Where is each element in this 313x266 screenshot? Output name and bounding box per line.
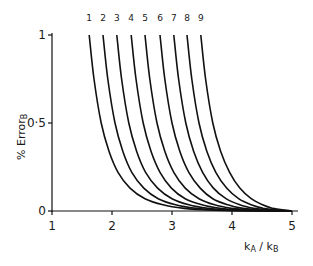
curves-group xyxy=(89,35,292,211)
curve-label-2: 2 xyxy=(100,13,106,23)
y-tick-label: 0·5 xyxy=(27,116,46,130)
curve-7 xyxy=(174,35,292,211)
x-tick-label: 2 xyxy=(108,219,116,233)
curve-label-4: 4 xyxy=(128,13,134,23)
x-ticks-group: 12345 xyxy=(48,211,296,233)
curve-label-6: 6 xyxy=(157,13,163,23)
curve-label-5: 5 xyxy=(142,13,148,23)
curve-label-1: 1 xyxy=(86,13,92,23)
x-tick-label: 4 xyxy=(228,219,236,233)
error-vs-rate-ratio-chart: 123456789 12345 00·51 kA / kB % ErrorB xyxy=(0,0,313,266)
y-tick-label: 1 xyxy=(38,28,46,42)
curve-6 xyxy=(160,35,290,211)
x-tick-label: 1 xyxy=(48,219,56,233)
curve-9 xyxy=(201,35,292,211)
x-axis-title: kA / kB xyxy=(244,240,278,254)
curve-label-8: 8 xyxy=(184,13,190,23)
curve-label-7: 7 xyxy=(171,13,177,23)
y-tick-label: 0 xyxy=(38,204,46,218)
x-tick-label: 3 xyxy=(168,219,176,233)
curve-label-9: 9 xyxy=(198,13,204,23)
x-tick-label: 5 xyxy=(288,219,296,233)
curve-5 xyxy=(145,35,288,211)
curve-3 xyxy=(117,35,283,211)
curve-label-3: 3 xyxy=(114,13,120,23)
y-ticks-group: 00·51 xyxy=(27,28,52,218)
y-axis-title: % ErrorB xyxy=(15,114,29,160)
curve-labels-group: 123456789 xyxy=(86,13,204,23)
